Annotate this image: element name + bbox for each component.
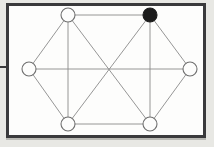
graph-node-bottom-right[interactable] (143, 117, 157, 131)
graph-edges-layer (29, 15, 190, 124)
graph-edge-middle-left-to-bottom-left (29, 69, 68, 124)
graph-node-middle-right[interactable] (183, 62, 197, 76)
graph-edge-middle-left-to-top-left (29, 15, 68, 69)
graph-node-middle-left[interactable] (22, 62, 36, 76)
graph-canvas (0, 0, 214, 147)
graph-node-bottom-left[interactable] (61, 117, 75, 131)
graph-node-top-left[interactable] (61, 8, 75, 22)
graph-edge-middle-right-to-bottom-right (150, 69, 190, 124)
graph-edge-middle-right-to-top-right (150, 15, 190, 69)
figure-root (0, 0, 214, 147)
graph-node-top-right[interactable] (143, 8, 157, 22)
